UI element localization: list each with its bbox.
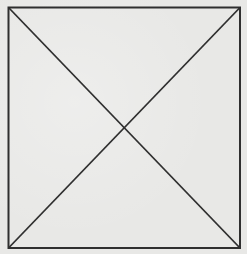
diagram-canvas — [0, 0, 247, 254]
square-diagram — [0, 0, 247, 254]
